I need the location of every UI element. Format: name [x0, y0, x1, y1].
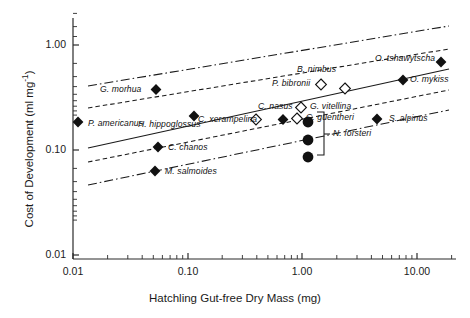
point-m-salmoides — [150, 166, 161, 177]
point-label-s-alpinus: S. alpinus — [389, 113, 428, 123]
point-label-c-chanos: C. chanos — [168, 142, 208, 152]
point-label-c-guentheri: C. guentheri — [306, 112, 354, 122]
x-tick-label-0-01: 0.01 — [49, 265, 97, 277]
y-axis-title-exponent: -1 — [21, 74, 30, 81]
point-g-vitellina — [296, 102, 307, 113]
point-label-o-tshawytscha: O. tshawytscha — [375, 53, 435, 63]
figure-container: 1.00 0.10 0.01 0.01 0.10 1.00 10.00 Hatc… — [0, 0, 470, 318]
point-c-guentheri — [292, 113, 303, 124]
x-ticks-group — [73, 253, 452, 259]
x-tick-label-0-10: 0.10 — [164, 265, 212, 277]
point-n-forsteri-2 — [303, 135, 314, 146]
point-o-tshawytscha — [436, 57, 447, 68]
point-n-forsteri-3 — [303, 152, 314, 163]
point-label-h-hippoglossus: H. hippoglossus — [138, 119, 201, 129]
point-o-mykiss — [398, 75, 409, 86]
y-ticks-group — [73, 13, 79, 255]
point-c-chanos — [153, 142, 164, 153]
point-label-p-americanus: P. americanus — [88, 118, 143, 128]
point-label-n-forsteri: N. forsteri — [333, 128, 371, 138]
point-g-morhua — [151, 84, 162, 95]
x-tick-label-10-00: 10.00 — [393, 265, 441, 277]
point-label-o-mykiss: O. mykiss — [410, 74, 449, 84]
y-axis-title-tail: ) — [23, 70, 35, 74]
x-axis-title: Hatchling Gut-free Dry Mass (mg) — [0, 292, 470, 304]
point-label-c-nasus: C. nasus — [258, 101, 293, 111]
point-p-bibronii — [316, 79, 327, 90]
x-tick-label-1-00: 1.00 — [278, 265, 326, 277]
point-label-b-nimbus: B. nimbus — [297, 64, 336, 74]
point-label-g-morhua: G. morhua — [100, 84, 142, 94]
point-p-americanus — [73, 117, 84, 128]
y-axis-title: Cost of Development (ml mg-1) — [21, 29, 35, 269]
point-label-g-vitellina: G. vitellina — [310, 101, 351, 111]
y-axis-title-main: Cost of Development (ml mg — [23, 82, 35, 228]
point-label-m-salmoides: M. salmoides — [165, 166, 217, 176]
point-label-p-bibronii: P. bibronii — [272, 78, 310, 88]
point-label-c-xerampelina: C. xerampelina — [198, 114, 257, 124]
point-s-alpinus — [372, 114, 383, 125]
